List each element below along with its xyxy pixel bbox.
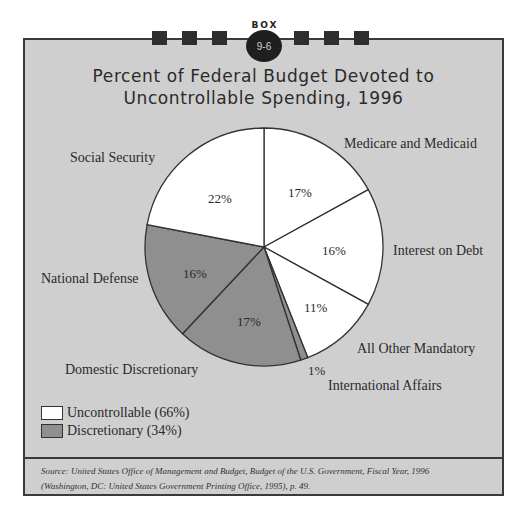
label-international-affairs: International Affairs	[328, 378, 442, 394]
legend-item-discretionary: Discretionary (34%)	[41, 423, 182, 439]
source-line2: (Washington, DC: United States Governmen…	[41, 479, 501, 494]
pct-international: 1%	[308, 363, 325, 379]
label-social-security: Social Security	[70, 150, 155, 166]
source-line1: Source: United States Office of Manageme…	[41, 464, 501, 479]
divider	[25, 457, 502, 459]
legend-label-discretionary: Discretionary (34%)	[67, 423, 182, 439]
legend-swatch-discretionary	[41, 424, 63, 438]
label-all-other-mandatory: All Other Mandatory	[357, 341, 475, 357]
legend-swatch-uncontrollable	[41, 406, 63, 420]
pct-medicare: 17%	[288, 185, 312, 201]
label-national-defense: National Defense	[41, 271, 139, 287]
pct-all-other: 11%	[304, 300, 327, 316]
pct-defense: 16%	[183, 266, 207, 282]
pct-domestic: 17%	[237, 314, 261, 330]
source-note: Source: United States Office of Manageme…	[41, 464, 501, 494]
label-medicare: Medicare and Medicaid	[344, 136, 477, 152]
pct-social-security: 22%	[208, 191, 232, 207]
pct-interest: 16%	[322, 243, 346, 259]
pie-chart	[0, 0, 528, 523]
legend-label-uncontrollable: Uncontrollable (66%)	[67, 405, 189, 421]
label-domestic-discretionary: Domestic Discretionary	[65, 362, 198, 378]
legend-item-uncontrollable: Uncontrollable (66%)	[41, 405, 189, 421]
label-interest: Interest on Debt	[393, 243, 483, 259]
